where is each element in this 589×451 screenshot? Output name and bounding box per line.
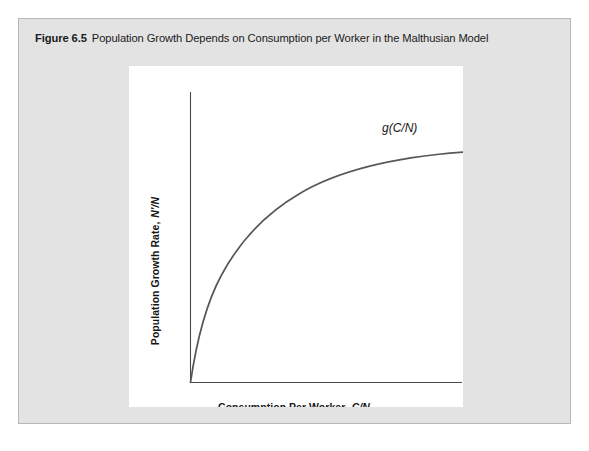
y-axis-label: Population Growth Rate,N'/N <box>150 196 161 345</box>
figure-card: Figure 6.5Population Growth Depends on C… <box>18 18 571 424</box>
growth-curve-g <box>191 152 464 383</box>
y-axis-label-math: N'/N <box>150 196 161 217</box>
figure-caption: Figure 6.5Population Growth Depends on C… <box>35 31 554 45</box>
figure-number-label: Figure 6.5 <box>35 32 87 44</box>
x-axis-label: Consumption Per Worker,C/N <box>218 402 370 407</box>
x-axis-label-plain: Consumption Per Worker, <box>218 402 348 407</box>
curve-label-g: g(C/N) <box>382 121 417 135</box>
plot-panel: g(C/N) Consumption Per Worker,C/N Popula… <box>129 66 463 407</box>
figure-caption-text: Population Growth Depends on Consumption… <box>92 32 489 44</box>
y-axis-label-plain: Population Growth Rate, <box>150 222 161 346</box>
population-growth-chart: g(C/N) Consumption Per Worker,C/N Popula… <box>129 66 463 407</box>
x-axis-label-math: C/N <box>352 402 371 407</box>
